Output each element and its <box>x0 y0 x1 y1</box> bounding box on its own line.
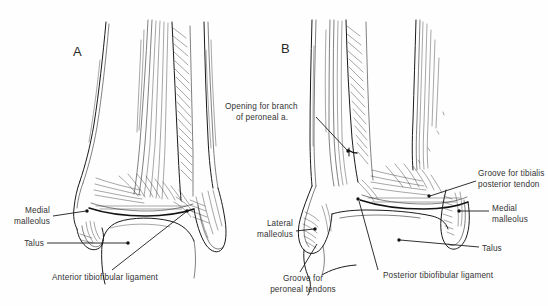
label-talus-a: Talus <box>24 239 44 248</box>
leader-posterior-tibiofibular-ligament-b <box>356 197 378 270</box>
stipple-marks-b <box>418 112 444 163</box>
panel-a-artwork <box>74 20 226 284</box>
medial-malleolus-b <box>441 190 470 249</box>
fibula-shaft-a <box>204 22 218 188</box>
panel-letter-b: B <box>281 41 290 56</box>
label-groove-peroneal-b-line2: peroneal tendons <box>270 285 336 294</box>
label-medial-malleolus-a-line1: Medial <box>25 206 50 215</box>
label-lateral-malleolus-b-line1: Lateral <box>267 219 293 228</box>
label-peroneal-opening-b-line2: of peroneal a. <box>236 113 288 122</box>
leader-groove-tibialis-b <box>427 181 476 198</box>
lateral-malleolus-a <box>190 188 226 252</box>
interosseous-membrane-hatching-b <box>346 20 373 182</box>
leader-lateral-malleolus-b <box>296 227 317 231</box>
interosseous-membrane-hatching-a <box>172 22 193 200</box>
panel-letter-a: A <box>73 44 82 59</box>
distal-tibia-b <box>360 164 468 209</box>
ankle-anatomy-illustration: Medial malleolus Talus Anterior tibiofib… <box>0 0 548 306</box>
tibia-shaft-b <box>325 20 347 186</box>
label-anterior-tibiofibular-ligament-a: Anterior tibiofibular ligament <box>52 273 159 282</box>
label-groove-peroneal-b-line1: Groove for <box>283 274 323 283</box>
fibula-shaft-b <box>310 20 316 186</box>
label-medial-malleolus-b-line2: malleolus <box>492 215 528 224</box>
panel-b-artwork <box>298 20 469 295</box>
leader-medial-malleolus-a <box>53 209 89 216</box>
leader-talus-b <box>397 238 479 247</box>
label-groove-tibialis-b-line1: Groove for tibialis <box>478 169 545 178</box>
label-posterior-tibiofibular-ligament-b: Posterior tibiofibular ligament <box>383 271 494 280</box>
tibia-medial-border-b <box>412 20 439 170</box>
label-groove-tibialis-b-line2: posterior tendon <box>478 180 540 189</box>
leader-peroneal-opening-b <box>316 117 350 153</box>
panel-b-annotations: Opening for branch of peroneal a. Latera… <box>225 41 545 294</box>
label-medial-malleolus-a-line2: malleolus <box>14 217 50 226</box>
tibia-interosseous-striations-a <box>134 20 168 199</box>
distal-tibia-a <box>89 174 194 216</box>
label-lateral-malleolus-b-line2: malleolus <box>257 230 293 239</box>
label-peroneal-opening-b-line1: Opening for branch <box>225 102 298 111</box>
anatomy-figure: Medial malleolus Talus Anterior tibiofib… <box>0 0 548 306</box>
label-talus-b: Talus <box>482 244 502 253</box>
medial-malleolus-a <box>77 221 104 250</box>
label-medial-malleolus-b-line1: Medial <box>492 204 517 213</box>
